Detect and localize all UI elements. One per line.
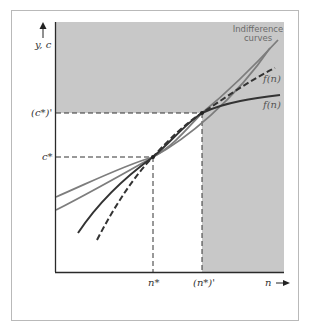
x-tick-n-star-prime: (n*)' xyxy=(193,278,215,288)
point-n-star-c-star xyxy=(151,155,155,159)
y-axis-arrow-icon xyxy=(40,22,47,38)
f-solid-label: f(n) xyxy=(263,100,281,110)
y-tick-c-star: c* xyxy=(42,152,53,162)
y-tick-c-star-prime: (c*)' xyxy=(31,108,52,118)
indifference-curves-label: Indifference curves xyxy=(232,25,284,43)
x-axis-label: n xyxy=(265,278,271,288)
x-tick-n-star: n* xyxy=(148,278,159,288)
y-axis-label: y, c xyxy=(35,40,51,50)
point-n-star-prime-c-star-prime xyxy=(200,111,204,115)
shaded-region-right xyxy=(202,113,284,272)
x-axis-arrow-icon xyxy=(276,280,290,286)
f-dashed-label: f(n) xyxy=(263,74,281,84)
